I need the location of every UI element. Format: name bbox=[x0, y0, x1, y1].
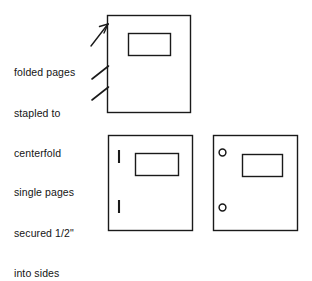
figure-bottom-left-page bbox=[109, 136, 193, 231]
inner-label-box-bottom-right bbox=[243, 155, 283, 177]
page-outline-top bbox=[108, 16, 191, 113]
staple-tick-icon-1 bbox=[92, 66, 109, 79]
punched-hole-icon-1 bbox=[219, 149, 226, 156]
single-pages-caption-line-2: secured 1/2" bbox=[14, 227, 74, 241]
folded-pages-caption-line-1: folded pages bbox=[14, 66, 75, 80]
inner-label-box-top bbox=[129, 34, 171, 56]
figure-top-page bbox=[91, 16, 191, 113]
inner-label-box-bottom-left bbox=[136, 154, 179, 176]
single-pages-caption-line-3: into sides bbox=[14, 267, 74, 281]
page-outline-bottom-left bbox=[109, 136, 193, 231]
folded-pages-caption-line-2: stapled to bbox=[14, 107, 75, 121]
staple-tick-icon-2 bbox=[92, 87, 109, 100]
page-outline-bottom-right bbox=[214, 136, 298, 231]
centerfold-arrow-icon bbox=[91, 24, 108, 46]
single-pages-caption-line-1: single pages bbox=[14, 186, 74, 200]
figure-bottom-right-page bbox=[214, 136, 298, 231]
single-pages-caption: single pages secured 1/2" into sides bbox=[14, 159, 74, 281]
punched-hole-icon-2 bbox=[219, 204, 226, 211]
